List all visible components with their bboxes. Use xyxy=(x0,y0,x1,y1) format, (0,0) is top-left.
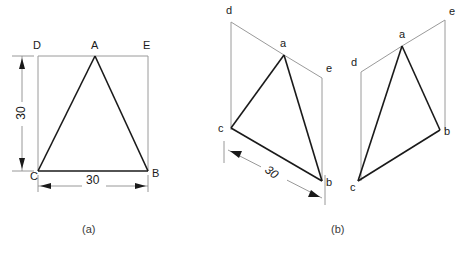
constr-edge-da xyxy=(361,46,402,72)
vertex-label-d-left: d xyxy=(226,5,232,16)
vertex-label-E: E xyxy=(143,40,150,51)
vertex-label-a-right: a xyxy=(399,29,405,40)
arrowhead-right xyxy=(135,183,146,189)
view-b-left-triangle xyxy=(231,55,322,181)
dimension-label-width: 30 xyxy=(86,174,99,186)
view-b-left-construction xyxy=(231,22,322,181)
constr-edge-ae xyxy=(402,20,445,46)
vertex-label-d-right: d xyxy=(351,57,357,68)
dimension-label-height: 30 xyxy=(15,106,27,119)
vertex-label-c-left: c xyxy=(218,123,224,134)
tri-edge-ac xyxy=(38,56,95,171)
arrowhead-down xyxy=(19,158,25,169)
caption-figure-a: (a) xyxy=(82,224,95,235)
view-b-right-group xyxy=(358,20,445,181)
tri-edge-ac xyxy=(231,55,284,128)
view-b-right-construction xyxy=(361,20,445,181)
vertex-label-A: A xyxy=(91,40,98,51)
vertex-label-c-right: c xyxy=(350,182,356,193)
vertex-label-e-left: e xyxy=(326,63,332,74)
arrowhead-left xyxy=(40,183,51,189)
vertex-label-a-left: a xyxy=(280,38,286,49)
arrowhead-start xyxy=(230,151,242,158)
vertex-label-D: D xyxy=(33,40,41,51)
view-a-triangle xyxy=(38,56,148,171)
tri-edge-cb xyxy=(358,130,440,181)
caption-figure-b: (b) xyxy=(331,224,344,235)
arrowhead-up xyxy=(19,58,25,69)
tri-edge-ac xyxy=(358,46,402,181)
arrowhead-end xyxy=(308,190,320,197)
tri-edge-ab xyxy=(95,56,148,171)
technical-drawing-canvas xyxy=(0,0,465,261)
view-a-rectangle xyxy=(38,56,148,171)
vertex-label-C: C xyxy=(30,171,38,182)
vertex-label-B: B xyxy=(152,168,159,179)
tri-edge-ab xyxy=(402,46,440,130)
vertex-label-b-right: b xyxy=(444,126,450,137)
vertex-label-b-left: b xyxy=(326,177,332,188)
constr-edge-da xyxy=(231,22,284,55)
vertex-label-e-right: e xyxy=(449,6,455,17)
